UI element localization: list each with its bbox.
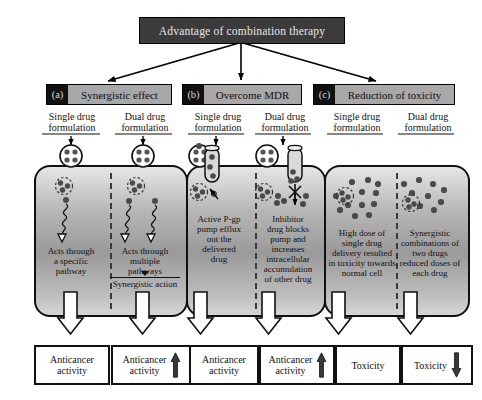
cell-body-a xyxy=(34,165,188,317)
column-caption-b-single: Single drugformulation xyxy=(186,111,250,133)
panel-b-body-dual: Inhibitordrug blockspump andincreasesint… xyxy=(256,214,320,284)
panel-b-body-single: Active P-gppump effluxout thedelivereddr… xyxy=(187,214,251,264)
column-caption-c-dual: Dual drugformulation xyxy=(396,111,460,133)
figure-canvas: Advantage of combination therapy xyxy=(0,0,482,400)
outcome-label: Toxicity xyxy=(412,360,449,371)
column-caption-c-single: Single drugformulation xyxy=(325,111,389,133)
outcome-box-c-dual: Toxicity xyxy=(401,345,473,385)
panel-header-c: (c) Reduction of toxicity xyxy=(313,84,455,105)
panel-heading-c: Reduction of toxicity xyxy=(335,85,454,104)
synergy-rule xyxy=(110,277,180,278)
arrow-up-icon xyxy=(170,352,181,378)
arrow-up-icon xyxy=(316,352,327,378)
panel-header-a: (a) Synergistic effect xyxy=(46,84,172,105)
column-caption-b-dual: Dual drugformulation xyxy=(253,111,317,133)
panel-c-body-single: High dose ofsingle drugdelivery resulted… xyxy=(326,228,398,278)
nanocarrier-icon xyxy=(60,145,278,167)
outcome-box-b-single: Anticanceractivity xyxy=(189,345,259,385)
column-caption-a-dual: Dual drugformulation xyxy=(113,111,177,133)
drug-molecule-icon xyxy=(196,143,202,149)
figure-title-text: Advantage of combination therapy xyxy=(159,25,325,37)
outcome-box-a-single: Anticanceractivity xyxy=(34,345,110,385)
synergy-tick xyxy=(141,271,149,276)
panel-a-note: Synergistic action xyxy=(108,279,182,289)
panel-c-body-dual: Synergisticcombinations oftwo drugsreduc… xyxy=(394,228,466,278)
panel-tag-b: (b) xyxy=(183,85,204,104)
panel-tag-c: (c) xyxy=(314,85,335,104)
panel-heading-a: Synergistic effect xyxy=(68,85,171,104)
panel-a-body-single: Acts througha specificpathway xyxy=(36,246,106,276)
panel-header-b: (b) Overcome MDR xyxy=(182,84,302,105)
outcome-box-c-single: Toxicity xyxy=(335,345,401,385)
arrow-down-icon xyxy=(451,352,462,378)
outcome-label: Toxicity xyxy=(349,360,386,371)
figure-title-box: Advantage of combination therapy xyxy=(139,17,345,44)
panel-tag-a: (a) xyxy=(47,85,68,104)
outcome-box-a-dual: Anticanceractivity xyxy=(111,345,191,385)
outcome-label: Anticanceractivity xyxy=(200,354,248,376)
outcome-box-b-dual: Anticanceractivity xyxy=(259,345,335,385)
outcome-label: Anticanceractivity xyxy=(48,354,96,376)
column-caption-a-single: Single drugformulation xyxy=(40,111,104,133)
panel-heading-b: Overcome MDR xyxy=(204,85,301,104)
outcome-label: Anticanceractivity xyxy=(121,354,169,376)
outcome-label: Anticanceractivity xyxy=(267,354,315,376)
